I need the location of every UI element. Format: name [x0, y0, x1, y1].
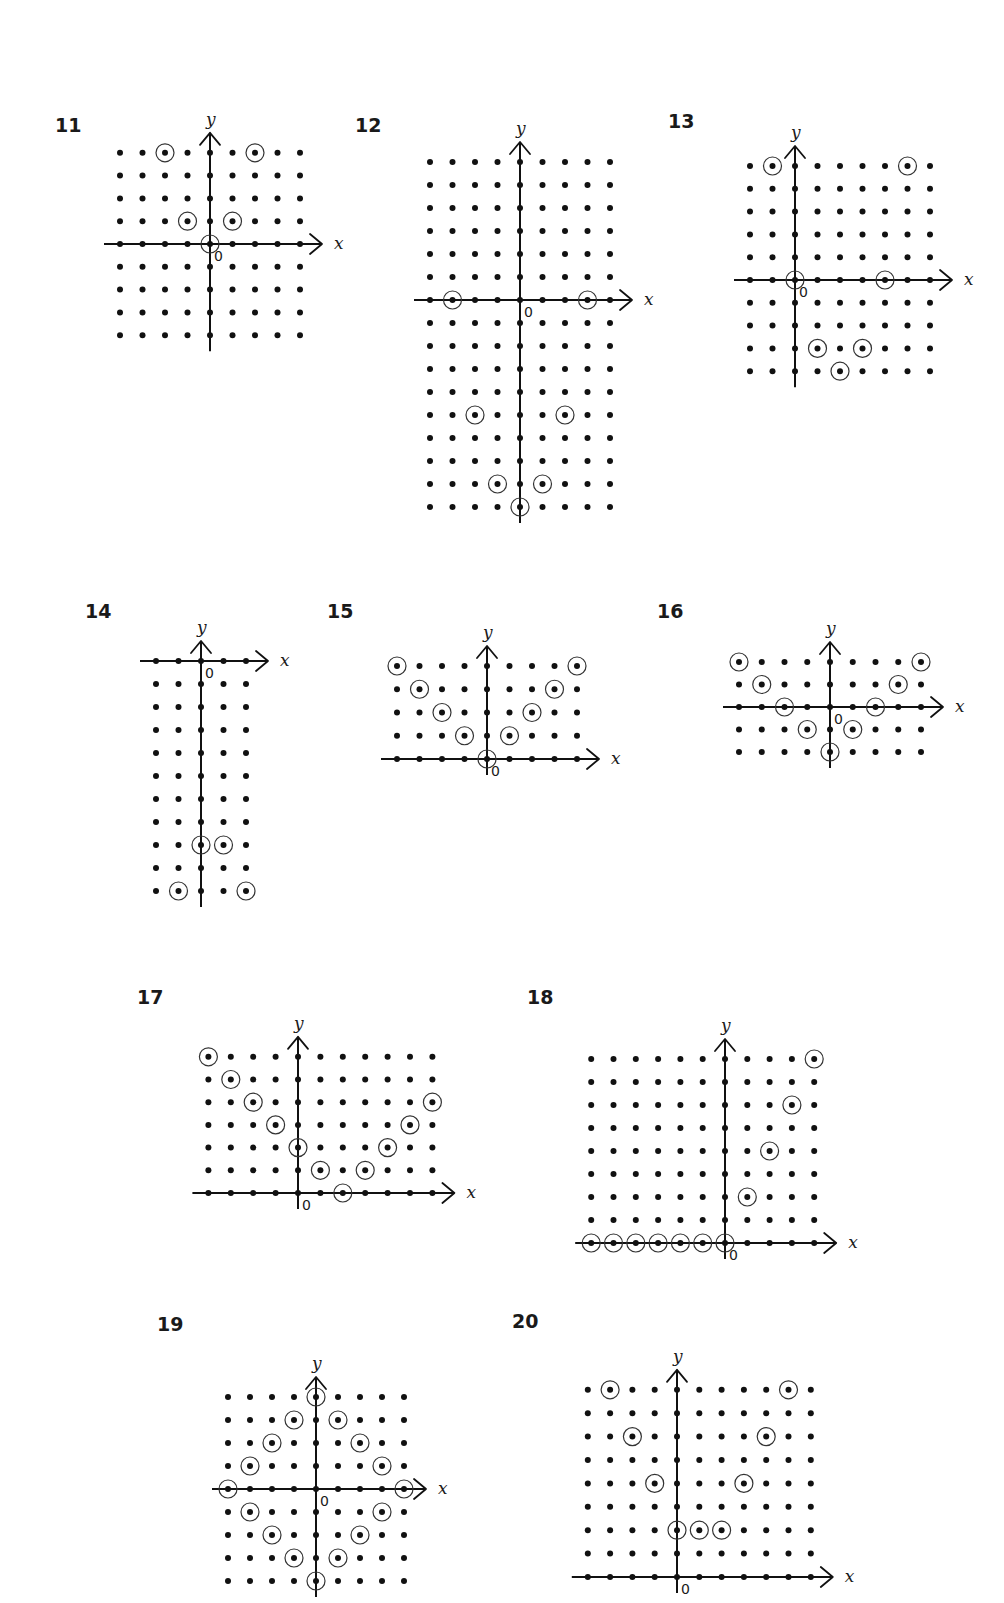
lattice-point: [117, 241, 123, 247]
lattice-point: [228, 1077, 234, 1083]
lattice-point: [811, 1102, 817, 1108]
lattice-point: [529, 710, 535, 716]
lattice-point: [895, 749, 901, 755]
lattice-point: [927, 186, 933, 192]
lattice-point: [221, 819, 227, 825]
lattice-point: [357, 1555, 363, 1561]
lattice-point: [696, 1551, 702, 1557]
lattice-point: [198, 796, 204, 802]
lattice-point: [176, 750, 182, 756]
lattice-point: [789, 1079, 795, 1085]
lattice-point: [243, 750, 249, 756]
lattice-point: [607, 182, 613, 188]
lattice-point: [317, 1099, 323, 1105]
lattice-point: [574, 710, 580, 716]
lattice-point: [607, 481, 613, 487]
lattice-point: [295, 1077, 301, 1083]
lattice-point: [655, 1240, 661, 1246]
lattice-point: [427, 274, 433, 280]
lattice-point: [401, 1509, 407, 1515]
lattice-point: [588, 1171, 594, 1177]
lattice-point: [517, 435, 523, 441]
lattice-point: [652, 1527, 658, 1533]
lattice-point: [385, 1167, 391, 1173]
lattice-point: [221, 750, 227, 756]
lattice-point: [873, 659, 879, 665]
lattice-point: [153, 704, 159, 710]
lattice-point: [273, 1167, 279, 1173]
lattice-point: [763, 1434, 769, 1440]
lattice-point: [417, 686, 423, 692]
lattice-point: [450, 481, 456, 487]
lattice-point: [273, 1190, 279, 1196]
lattice-point: [472, 205, 478, 211]
lattice-point: [291, 1509, 297, 1515]
lattice-point: [243, 658, 249, 664]
lattice-point: [291, 1532, 297, 1538]
x-axis-label: x: [848, 1232, 858, 1252]
lattice-point: [763, 1410, 769, 1416]
lattice-point: [895, 682, 901, 688]
lattice-point: [429, 1122, 435, 1128]
lattice-point: [291, 1394, 297, 1400]
lattice-point: [230, 218, 236, 224]
y-axis-label: y: [196, 617, 207, 637]
lattice-point: [696, 1574, 702, 1580]
lattice-point: [185, 241, 191, 247]
lattice-point: [247, 1394, 253, 1400]
lattice-point: [629, 1434, 635, 1440]
lattice-point: [860, 186, 866, 192]
lattice-point: [357, 1417, 363, 1423]
lattice-point: [243, 842, 249, 848]
lattice-point: [153, 773, 159, 779]
lattice-point: [472, 343, 478, 349]
lattice-point: [250, 1122, 256, 1128]
lattice-point: [357, 1463, 363, 1469]
lattice-point: [484, 686, 490, 692]
lattice-point: [495, 205, 501, 211]
lattice-point: [585, 228, 591, 234]
lattice-point: [250, 1167, 256, 1173]
lattice-point: [747, 345, 753, 351]
lattice-point: [517, 182, 523, 188]
lattice-point: [401, 1394, 407, 1400]
lattice-point: [611, 1240, 617, 1246]
lattice-point: [247, 1417, 253, 1423]
lattice-point: [696, 1457, 702, 1463]
lattice-point: [850, 704, 856, 710]
lattice-point: [495, 251, 501, 257]
lattice-point: [439, 686, 445, 692]
lattice-point: [588, 1217, 594, 1223]
lattice-point: [317, 1122, 323, 1128]
lattice-point: [427, 182, 433, 188]
lattice-point: [629, 1504, 635, 1510]
lattice-point: [140, 309, 146, 315]
lattice-point: [252, 264, 258, 270]
lattice-point: [228, 1099, 234, 1105]
lattice-point: [198, 704, 204, 710]
lattice-point: [770, 345, 776, 351]
lattice-point: [588, 1125, 594, 1131]
lattice-point: [905, 231, 911, 237]
lattice-point: [313, 1440, 319, 1446]
exercise-number: 19: [157, 1313, 183, 1335]
lattice-point: [860, 231, 866, 237]
y-axis-label: y: [825, 618, 836, 638]
lattice-point: [562, 504, 568, 510]
lattice-point: [529, 686, 535, 692]
lattice-point: [221, 727, 227, 733]
y-axis-label: y: [672, 1346, 683, 1366]
lattice-point: [574, 686, 580, 692]
lattice-point: [674, 1387, 680, 1393]
lattice-point: [269, 1486, 275, 1492]
lattice-point: [741, 1410, 747, 1416]
lattice-point: [562, 297, 568, 303]
lattice-point: [763, 1504, 769, 1510]
lattice-point: [655, 1148, 661, 1154]
lattice-point: [585, 1457, 591, 1463]
lattice-point: [517, 320, 523, 326]
lattice-point: [585, 412, 591, 418]
lattice-point: [700, 1240, 706, 1246]
lattice-point: [789, 1240, 795, 1246]
lattice-point: [629, 1387, 635, 1393]
